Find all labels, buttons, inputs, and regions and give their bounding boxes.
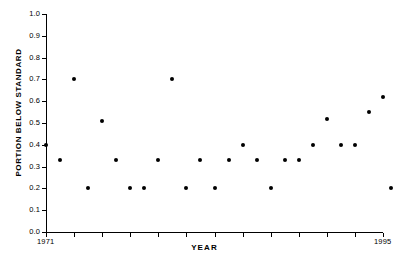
y-axis-title: PORTION BELOW STANDARD xyxy=(14,28,23,198)
data-point xyxy=(227,158,231,162)
data-point xyxy=(170,77,174,81)
data-point xyxy=(311,143,315,147)
data-points-layer xyxy=(0,0,409,261)
data-point xyxy=(156,158,160,162)
data-point xyxy=(297,158,301,162)
data-point xyxy=(86,186,90,190)
data-point xyxy=(142,186,146,190)
data-point xyxy=(100,119,104,123)
data-point xyxy=(325,117,329,121)
data-point xyxy=(241,143,245,147)
data-point xyxy=(58,158,62,162)
data-point xyxy=(353,143,357,147)
data-point xyxy=(367,110,371,114)
data-point xyxy=(198,158,202,162)
x-axis-title: YEAR xyxy=(0,243,409,252)
data-point xyxy=(128,186,132,190)
data-point xyxy=(184,186,188,190)
data-point xyxy=(283,158,287,162)
scatter-chart: 0.00.10.20.30.40.50.60.70.80.91.0 197119… xyxy=(0,0,409,261)
data-point xyxy=(269,186,273,190)
data-point xyxy=(255,158,259,162)
data-point xyxy=(72,77,76,81)
data-point xyxy=(44,143,48,147)
data-point xyxy=(389,186,393,190)
data-point xyxy=(381,95,385,99)
data-point xyxy=(339,143,343,147)
data-point xyxy=(213,186,217,190)
data-point xyxy=(114,158,118,162)
